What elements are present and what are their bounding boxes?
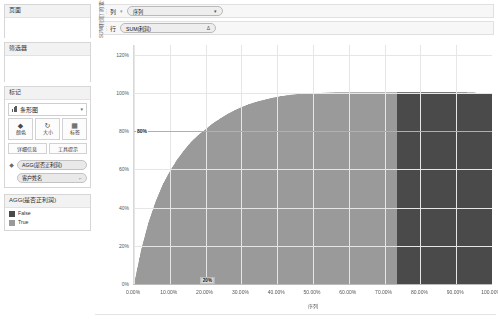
legend-swatch-true xyxy=(9,220,15,226)
pareto-plot[interactable]: 80%20% xyxy=(133,45,492,285)
grip-icon: ⋮⋮ xyxy=(104,26,108,31)
columns-shelf[interactable]: ⋮⋮ 列 ▾ 序列 ▾ xyxy=(99,4,494,18)
x-axis-tick-label: 20.00% xyxy=(196,289,213,295)
gridline-vertical xyxy=(277,45,278,284)
x-axis-tick-label: 0.00% xyxy=(126,289,140,295)
tooltip-button[interactable]: 工具提示 xyxy=(49,143,88,154)
x-axis-tick-label: 90.00% xyxy=(447,289,464,295)
y-axis-tick-label: 120% xyxy=(116,52,129,58)
legend-label-false: False xyxy=(18,211,31,216)
mark-type-label: 条形图 xyxy=(20,105,38,114)
label-button[interactable]: ▦ 标签 xyxy=(62,118,87,140)
x-axis-tick-label: 10.00% xyxy=(160,289,177,295)
x-axis-tick-label: 40.00% xyxy=(268,289,285,295)
color-field-pill[interactable]: AGG(是否正利润) xyxy=(17,160,87,170)
pages-drop-area[interactable] xyxy=(5,18,90,38)
visualization-area: SUM(利润) 的 累计 百分比 0%20%40%60%80%100%120% … xyxy=(95,39,496,319)
color-button-label: 颜色 xyxy=(16,130,26,135)
chevron-down-icon: ▾ xyxy=(80,107,83,112)
gridline-horizontal xyxy=(134,93,492,94)
marks-card-title: 标记 xyxy=(5,87,90,100)
gridline-vertical xyxy=(170,45,171,284)
legend-item-false[interactable]: False xyxy=(9,211,86,217)
color-pill-row: ◆ AGG(是否正利润) xyxy=(8,160,87,170)
marks-side-panel: 页面 筛选器 标记 条形图 ▾ ◆ 颜色 ↻ 大小 xyxy=(0,0,95,319)
shelves-area: ⋮⋮ 列 ▾ 序列 ▾ ⋮⋮ 行 SUM(利润) Δ xyxy=(95,0,498,35)
reference-line-label: 80% xyxy=(136,128,148,134)
reference-line-80[interactable] xyxy=(134,131,492,132)
label-icon: ▦ xyxy=(71,122,78,129)
size-button[interactable]: ↻ 大小 xyxy=(35,118,60,140)
gridline-vertical xyxy=(456,45,457,284)
y-axis-tick-label: 20% xyxy=(119,243,129,249)
label-button-label: 标签 xyxy=(70,130,80,135)
label-field-pill-tail: ⌐ xyxy=(79,175,82,181)
filters-drop-area[interactable] xyxy=(5,56,90,82)
columns-field-pill[interactable]: 序列 ▾ xyxy=(127,6,223,16)
color-button[interactable]: ◆ 颜色 xyxy=(8,118,33,140)
legend-item-true[interactable]: True xyxy=(9,220,86,226)
mark-encoding-buttons: ◆ 颜色 ↻ 大小 ▦ 标签 xyxy=(5,118,90,143)
size-icon: ↻ xyxy=(45,122,51,129)
pages-card: 页面 xyxy=(4,4,91,38)
y-axis-tick-label: 0% xyxy=(122,281,129,287)
gridline-horizontal xyxy=(134,208,492,209)
x-axis-tick-label: 30.00% xyxy=(232,289,249,295)
legend-items: False True xyxy=(5,208,90,230)
columns-shelf-text: 列 xyxy=(110,7,116,16)
mark-extra-buttons: 详细信息 工具提示 xyxy=(5,143,90,157)
pages-card-title: 页面 xyxy=(5,5,90,18)
legend-label-true: True xyxy=(18,220,28,225)
x-drop-label: 20% xyxy=(201,277,214,284)
filters-card: 筛选器 xyxy=(4,42,91,82)
rows-shelf-text: 行 xyxy=(110,24,116,33)
rows-shelf[interactable]: ⋮⋮ 行 SUM(利润) Δ xyxy=(99,21,494,35)
columns-field-pill-caret-icon: ▾ xyxy=(214,8,217,14)
rows-field-pill[interactable]: SUM(利润) Δ xyxy=(120,23,216,33)
rows-shelf-label: ⋮⋮ 行 xyxy=(104,24,116,33)
gridline-vertical xyxy=(349,45,350,284)
marks-pill-zone: ◆ AGG(是否正利润) 客户姓名 ⌐ xyxy=(5,157,90,187)
gridline-vertical xyxy=(241,45,242,284)
label-pill-row: 客户姓名 ⌐ xyxy=(8,173,87,183)
label-field-pill[interactable]: 客户姓名 ⌐ xyxy=(17,173,87,183)
columns-field-pill-text: 序列 xyxy=(133,8,143,15)
color-icon: ◆ xyxy=(18,122,23,129)
x-axis-tick-label: 80.00% xyxy=(411,289,428,295)
color-legend-card: AGG(是否正利润) False True xyxy=(4,194,91,231)
worksheet-main: ⋮⋮ 列 ▾ 序列 ▾ ⋮⋮ 行 SUM(利润) Δ xyxy=(95,0,498,319)
gridline-horizontal xyxy=(134,55,492,56)
columns-shelf-caret-icon: ▾ xyxy=(120,8,123,14)
gridline-vertical xyxy=(313,45,314,284)
gridline-horizontal xyxy=(134,284,492,285)
legend-title: AGG(是否正利润) xyxy=(5,195,90,208)
mark-type-dropdown[interactable]: 条形图 ▾ xyxy=(8,103,87,116)
gridline-vertical xyxy=(420,45,421,284)
legend-swatch-false xyxy=(9,211,15,217)
grip-icon: ⋮⋮ xyxy=(104,9,108,14)
rows-field-pill-text: SUM(利润) xyxy=(126,25,151,32)
bottom-divider xyxy=(95,314,496,315)
label-field-pill-text: 客户姓名 xyxy=(22,174,42,181)
tableau-worksheet: 页面 筛选器 标记 条形图 ▾ ◆ 颜色 ↻ 大小 xyxy=(0,0,498,319)
gridline-vertical xyxy=(206,45,207,284)
x-axis-tick-label: 70.00% xyxy=(375,289,392,295)
marks-card: 标记 条形图 ▾ ◆ 颜色 ↻ 大小 ▦ 标签 xyxy=(4,86,91,188)
x-axis-title: 序列 xyxy=(133,302,492,309)
gridline-horizontal xyxy=(134,246,492,247)
rows-field-pill-delta-icon: Δ xyxy=(207,25,210,31)
bar-chart-icon xyxy=(12,106,17,112)
color-shelf-icon: ◆ xyxy=(8,162,15,168)
size-button-label: 大小 xyxy=(43,130,53,135)
y-axis-tick-label: 40% xyxy=(119,205,129,211)
y-axis-tick-label: 60% xyxy=(119,166,129,172)
gridline-vertical xyxy=(134,45,135,284)
x-axis-tick-label: 60.00% xyxy=(339,289,356,295)
x-axis-ticks: 0.00%10.00%20.00%30.00%40.00%50.00%60.00… xyxy=(133,289,492,299)
gridline-vertical xyxy=(385,45,386,284)
columns-shelf-label: ⋮⋮ 列 xyxy=(104,7,116,16)
detail-button[interactable]: 详细信息 xyxy=(8,143,47,154)
filters-card-title: 筛选器 xyxy=(5,43,90,56)
y-axis-tick-label: 100% xyxy=(116,90,129,96)
plot-wrapper: SUM(利润) 的 累计 百分比 0%20%40%60%80%100%120% … xyxy=(95,39,496,319)
